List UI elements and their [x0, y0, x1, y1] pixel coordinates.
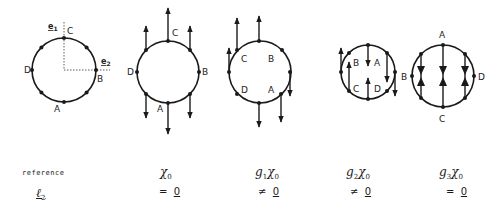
relation-operator: = — [446, 186, 454, 197]
chi0-diagram: C B A D — [127, 8, 208, 134]
point-label-a: A — [268, 85, 275, 95]
g-symbol: g — [346, 165, 354, 179]
value-g1chi0: ≠ 0 — [258, 186, 279, 197]
point-label-a: A — [54, 104, 61, 114]
point-label-c: C — [241, 54, 247, 64]
reference-diagram: e1 e2 C B A D — [24, 22, 111, 114]
point-label-b: B — [268, 54, 274, 64]
symmetry-diagrams: e1 e2 C B A D C B A D — [0, 0, 504, 150]
point-label-c: C — [353, 84, 359, 94]
point-label-b: B — [97, 74, 103, 84]
point-label-d: D — [374, 84, 381, 94]
point-label-d: D — [24, 65, 31, 75]
point-label-d: D — [127, 67, 134, 77]
zero-vector: 0 — [174, 186, 180, 197]
point-label-b: B — [353, 58, 359, 68]
point-label-b: B — [202, 67, 208, 77]
zero-vector: 0 — [461, 186, 467, 197]
value-g3chi0: = 0 — [446, 186, 467, 197]
column-g1chi0: g1χ0 — [255, 165, 279, 181]
point-label-a: A — [157, 104, 164, 114]
value-g2chi0: ≠ 0 — [350, 186, 371, 197]
point-label-c: C — [67, 26, 73, 36]
l2-label: ℓ2 — [36, 186, 45, 202]
column-g2chi0: g2χ0 — [346, 165, 370, 181]
value-chi0: = 0 — [159, 186, 180, 197]
point-label-d: D — [241, 85, 248, 95]
zero-vector: 0 — [365, 186, 371, 197]
zero-vector: 0 — [273, 186, 279, 197]
relation-operator: = — [159, 186, 167, 197]
header-row: reference χ0 g1χ0 g2χ0 g3χ0 — [0, 165, 504, 183]
g1chi0-diagram: C B D A — [227, 16, 292, 127]
relation-operator: ≠ — [258, 186, 266, 197]
chi-subscript: 0 — [274, 173, 278, 181]
column-g3chi0: g3χ0 — [439, 165, 463, 181]
e2-label: e2 — [101, 57, 111, 67]
point-label-a: A — [374, 58, 381, 68]
e1-label: e1 — [48, 22, 58, 32]
g3chi0-diagram: A B D C — [401, 30, 485, 124]
g2chi0-diagram: B A C D — [339, 43, 397, 101]
l-subscript: 2 — [41, 194, 45, 202]
reference-label: reference — [22, 169, 64, 177]
chi-subscript: 0 — [458, 173, 462, 181]
point-label-a: A — [439, 30, 446, 40]
relation-operator: ≠ — [350, 186, 358, 197]
chi-subscript: 0 — [167, 173, 171, 181]
point-label-b: B — [401, 72, 407, 82]
g-symbol: g — [439, 165, 447, 179]
value-row: ℓ2 = 0 ≠ 0 ≠ 0 = 0 — [0, 186, 504, 204]
point-label-c: C — [172, 28, 178, 38]
chi-subscript: 0 — [365, 173, 369, 181]
point-label-d: D — [478, 72, 485, 82]
g-symbol: g — [255, 165, 263, 179]
point-label-c: C — [439, 114, 445, 124]
column-chi0: χ0 — [160, 165, 172, 181]
